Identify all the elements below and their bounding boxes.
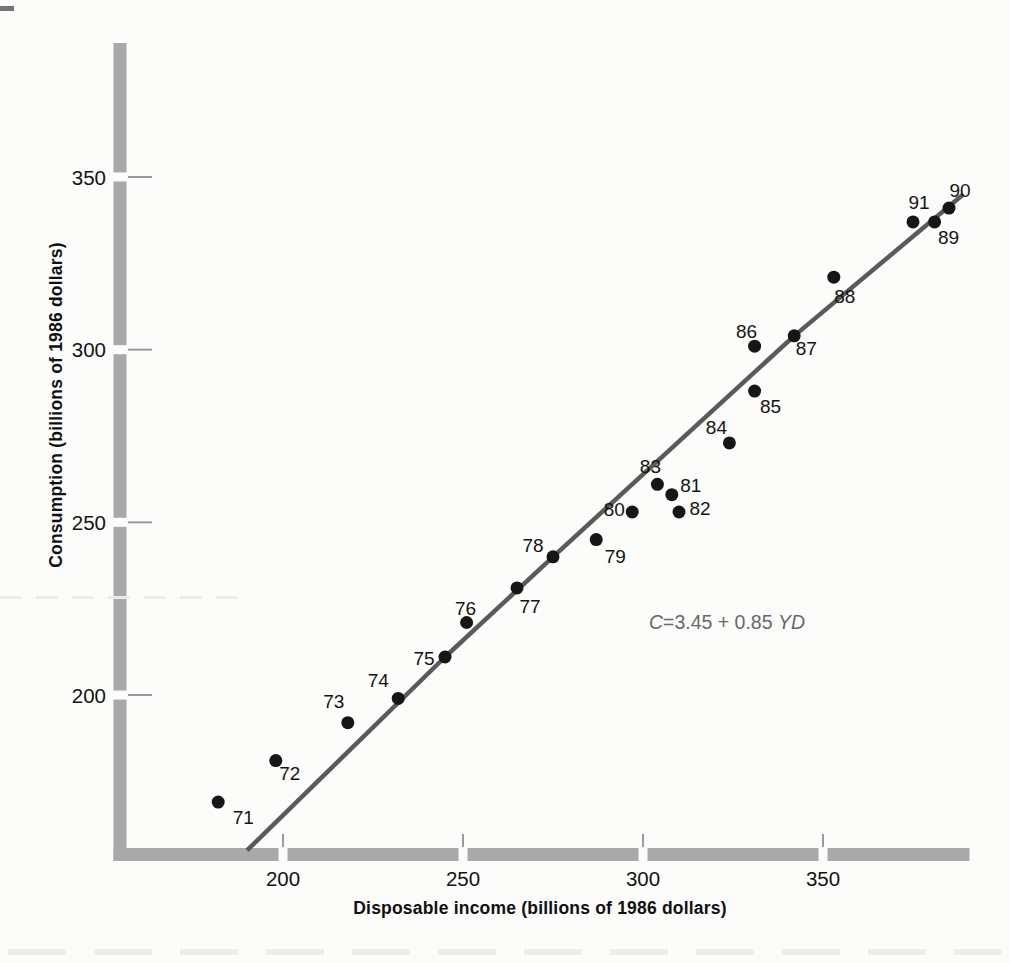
x-tick-label: 300 [626,867,660,890]
y-tick-label: 250 [72,511,106,534]
data-point-82 [673,505,686,518]
y-tick-gap [111,691,129,700]
point-label-88: 88 [834,286,855,307]
data-point-71 [212,796,225,809]
point-label-79: 79 [605,546,626,567]
data-point-74 [392,692,405,705]
point-label-74: 74 [368,670,390,691]
point-label-80: 80 [604,499,625,520]
y-tick-label: 200 [72,684,106,707]
regression-line [247,194,963,850]
point-label-89: 89 [938,227,959,248]
data-point-91 [907,215,920,228]
equation-var-c: C [649,611,663,633]
x-tick-gap [819,847,828,862]
y-axis-bar [114,43,127,861]
point-label-78: 78 [522,535,543,556]
point-label-73: 73 [323,691,344,712]
point-label-75: 75 [413,648,434,669]
point-label-82: 82 [689,498,710,519]
data-point-83 [651,478,664,491]
y-tick-gap [111,518,129,527]
x-tick-label: 250 [446,867,480,890]
x-axis-title: Disposable income (billions of 1986 doll… [353,898,726,919]
point-label-90: 90 [949,180,970,201]
regression-equation: C=3.45 + 0.85 YD [649,611,805,634]
equation-body: =3.45 + 0.85 [663,611,778,633]
point-label-76: 76 [455,598,476,619]
point-label-83: 83 [640,456,661,477]
data-point-73 [341,716,354,729]
data-point-75 [439,651,452,664]
y-tick-gap [111,173,129,182]
data-point-88 [827,271,840,284]
point-label-91: 91 [908,192,929,213]
x-tick-gap [279,847,288,862]
scan-artifact-topleft [0,6,14,11]
data-point-81 [665,488,678,501]
scan-artifact-bottom [8,949,1002,955]
y-axis-title: Consumption (billions of 1986 dollars) [46,242,67,568]
data-point-77 [511,581,524,594]
y-tick-gap [111,345,129,354]
x-tick-label: 200 [266,867,300,890]
page: 2002503003502002503003507172737475767778… [0,0,1010,963]
y-tick-label: 350 [72,166,106,189]
y-tick-label: 300 [72,338,106,361]
x-tick-label: 350 [806,867,840,890]
point-label-71: 71 [233,807,254,828]
x-tick-gap [459,847,468,862]
data-point-79 [590,533,603,546]
point-label-86: 86 [736,321,757,342]
point-label-84: 84 [706,417,728,438]
data-point-80 [626,505,639,518]
x-axis-bar [114,848,970,861]
scatter-plot: 2002503003502002503003507172737475767778… [0,0,1010,963]
point-label-77: 77 [519,596,540,617]
point-label-85: 85 [760,396,781,417]
data-point-78 [547,550,560,563]
point-label-87: 87 [796,338,817,359]
point-label-81: 81 [680,475,701,496]
scan-artifact-middle [0,596,250,599]
equation-var-yd: YD [778,611,805,633]
point-label-72: 72 [279,763,300,784]
x-tick-gap [639,847,648,862]
data-point-90 [943,202,956,215]
